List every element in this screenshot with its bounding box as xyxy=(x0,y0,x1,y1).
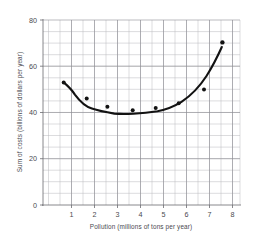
data-point xyxy=(177,101,181,105)
data-point xyxy=(85,97,89,101)
y-tick-label-0: 0 xyxy=(33,201,37,210)
x-tick-label-3: 3 xyxy=(116,210,120,219)
x-tick-label-6: 6 xyxy=(185,210,189,219)
y-tick-label-60: 60 xyxy=(29,62,37,71)
x-tick-label-5: 5 xyxy=(162,210,166,219)
data-point xyxy=(202,87,206,91)
y-tick-label-20: 20 xyxy=(29,154,37,163)
x-tick-label-1: 1 xyxy=(70,210,74,219)
y-axis-title: Sum of costs (billions of dollars per ye… xyxy=(16,52,24,173)
y-tick-label-80: 80 xyxy=(29,16,37,25)
data-point xyxy=(154,106,158,110)
data-point xyxy=(62,80,66,84)
chart-background xyxy=(0,0,255,234)
x-tick-label-4: 4 xyxy=(139,210,143,219)
x-tick-label-8: 8 xyxy=(231,210,235,219)
x-tick-label-2: 2 xyxy=(93,210,97,219)
data-point xyxy=(220,40,224,44)
x-tick-label-7: 7 xyxy=(208,210,212,219)
data-point xyxy=(105,105,109,109)
cost-vs-pollution-chart: 80 60 40 20 0 1 2 3 4 5 6 7 8 Pollution … xyxy=(0,0,255,234)
x-axis-title: Pollution (millions of tons per year) xyxy=(90,223,192,231)
y-tick-label-40: 40 xyxy=(29,108,37,117)
data-point xyxy=(131,108,135,112)
